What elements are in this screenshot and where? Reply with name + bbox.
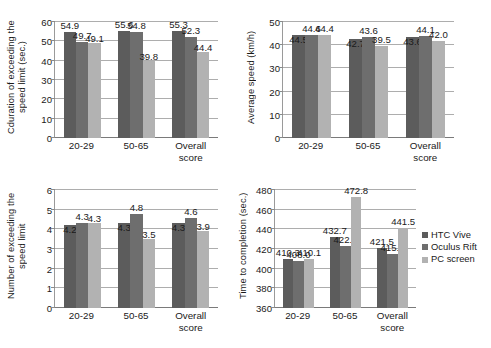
x-category-line: score	[163, 152, 218, 164]
bar: 44.1	[419, 36, 432, 138]
bar: 55.6	[118, 31, 130, 138]
bar: 4.3	[88, 223, 100, 308]
plot-area: 010203040506054.949.749.155.654.839.855.…	[30, 22, 218, 138]
chart-legend: HTC ViveOculus RiftPC screen	[422, 229, 477, 266]
x-category-label: 20-29	[274, 310, 321, 333]
x-category-line: 20-29	[282, 140, 339, 152]
legend-label: Oculus Rift	[431, 241, 477, 253]
x-category-label: 50-65	[109, 140, 164, 163]
y-tick-label: 6	[47, 185, 52, 196]
y-axis-title: Number of exceeding the speed limit	[6, 184, 30, 308]
chart-panel-duration-exceeding-speed-limit: Cduration of exceeding the speed limit (…	[0, 0, 246, 174]
x-category-line: Overall	[397, 140, 454, 152]
bar: 4.6	[185, 218, 197, 308]
y-tick-label: 4	[47, 224, 52, 235]
bar-value-label: 3.9	[196, 221, 209, 232]
plot-area: 0102030405044.544.644.442.743.639.543.64…	[258, 22, 454, 138]
y-tick-label: 420	[256, 244, 272, 255]
bar-group: 43.644.142.0	[397, 22, 454, 138]
y-tick-label: 360	[256, 303, 272, 314]
y-tick-label: 480	[256, 185, 272, 196]
y-tick-label: 40	[269, 40, 280, 51]
bar-group: 42.743.639.5	[340, 22, 397, 138]
chart-panel-number-exceeding-speed-limit: Number of exceeding the speed limit01234…	[0, 174, 246, 348]
legend-item[interactable]: Oculus Rift	[422, 241, 477, 253]
y-tick-label: 10	[269, 109, 280, 120]
y-tick-label: 20	[41, 94, 52, 105]
chart-panel-average-speed: Average speed (km/h)0102030405044.544.64…	[246, 0, 491, 174]
y-tick-label: 0	[47, 303, 52, 314]
bar: 432.7	[330, 237, 341, 308]
bar: 44.4	[197, 52, 209, 138]
bar-value-label: 4.6	[184, 206, 197, 217]
bar: 410.1	[304, 259, 315, 308]
bar: 4.3	[118, 223, 130, 308]
x-category-line: 50-65	[339, 140, 396, 152]
plot-canvas: 410.3408.0410.1432.7422.8472.8421.5415.4…	[274, 190, 416, 308]
plot-area: 01234564.24.34.34.34.83.54.34.63.9	[30, 190, 218, 308]
x-category-line: Overall	[163, 310, 218, 322]
bar: 42.7	[349, 39, 362, 138]
x-category-line: 20-29	[274, 310, 321, 322]
bar-value-label: 441.5	[391, 216, 415, 227]
bar: 4.2	[64, 225, 76, 308]
x-category-label: Overallscore	[163, 140, 218, 163]
y-tick-label: 440	[256, 224, 272, 235]
plot-canvas: 44.544.644.442.743.639.543.644.142.0	[282, 22, 454, 138]
bar: 39.5	[375, 46, 388, 138]
x-axis-categories: 20-2950-65Overallscore	[282, 140, 454, 163]
y-tick-label: 10	[41, 113, 52, 124]
bar: 49.7	[76, 42, 88, 138]
x-category-line: 50-65	[109, 140, 164, 152]
figure-grid: Cduration of exceeding the speed limit (…	[0, 0, 491, 348]
bar: 410.3	[283, 259, 294, 308]
x-category-line: Overall	[163, 140, 218, 152]
bar: 472.8	[351, 197, 362, 308]
legend-item[interactable]: HTC Vive	[422, 229, 477, 241]
legend-item[interactable]: PC screen	[422, 253, 477, 265]
bar: 44.6	[305, 35, 318, 138]
chart-panel-time-to-completion: Time to completion (sec.)360380400420440…	[246, 174, 491, 348]
bar-value-label: 3.5	[142, 229, 155, 240]
x-category-line: 20-29	[54, 140, 109, 152]
x-category-line: 50-65	[109, 310, 164, 322]
bar: 421.5	[377, 248, 388, 308]
bar-value-label: 52.3	[181, 25, 200, 36]
y-tick-label: 50	[269, 17, 280, 28]
bar: 441.5	[398, 228, 409, 308]
bar: 44.4	[318, 35, 331, 138]
bar-value-label: 44.4	[194, 42, 213, 53]
x-category-label: Overallscore	[163, 310, 218, 333]
bar-value-label: 472.8	[344, 185, 368, 196]
y-tick-label: 50	[41, 36, 52, 47]
plot-canvas: 54.949.749.155.654.839.855.352.344.4	[54, 22, 218, 138]
y-tick-label: 5	[47, 204, 52, 215]
x-category-label: 20-29	[54, 310, 109, 333]
bar: 4.8	[130, 214, 142, 308]
bar-groups: 410.3408.0410.1432.7422.8472.8421.5415.4…	[275, 190, 416, 308]
x-category-line: score	[397, 152, 454, 164]
bar-value-label: 4.2	[63, 224, 76, 235]
y-tick-label: 400	[256, 263, 272, 274]
bar-value-label: 54.8	[127, 20, 146, 31]
plot-area: 360380400420440460480410.3408.0410.1432.…	[250, 190, 416, 308]
bar: 42.0	[432, 41, 445, 138]
x-axis-categories: 20-2950-65Overallscore	[54, 140, 218, 163]
x-category-line: 20-29	[54, 310, 109, 322]
bar-value-label: 4.8	[130, 202, 143, 213]
legend-label: HTC Vive	[431, 229, 471, 241]
x-category-label: 50-65	[109, 310, 164, 333]
x-category-line: score	[163, 322, 218, 334]
bar-groups: 44.544.644.442.743.639.543.644.142.0	[283, 22, 454, 138]
bar: 3.9	[197, 231, 209, 308]
bar-groups: 4.24.34.34.34.83.54.34.63.9	[55, 190, 218, 308]
y-tick-label: 1	[47, 283, 52, 294]
y-tick-label: 60	[41, 17, 52, 28]
bar: 39.8	[143, 61, 155, 138]
bar-value-label: 39.5	[372, 34, 391, 45]
y-tick-label: 2	[47, 263, 52, 274]
bar: 54.8	[130, 32, 142, 138]
bar-group: 55.654.839.8	[109, 22, 163, 138]
y-tick-label: 30	[41, 75, 52, 86]
y-tick-label: 380	[256, 283, 272, 294]
